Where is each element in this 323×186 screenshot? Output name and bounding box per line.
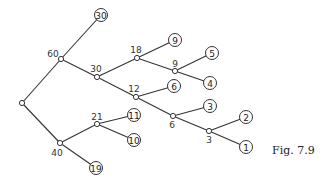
leaf-node: 10 [128,134,141,147]
internal-node: 40 [51,140,63,158]
tree-nodes: 603018912634021309546321111019 [19,9,252,175]
tree-edge [60,124,97,143]
leaf-weight-label: 9 [172,36,178,46]
tree-edge [97,58,137,77]
leaf-node: 5 [206,47,219,60]
internal-node: 12 [128,84,139,100]
tree-edge [137,58,175,71]
node-marker [134,55,139,60]
leaf-node: 11 [128,109,141,122]
leaf-weight-label: 3 [207,102,213,112]
leaf-weight-label: 6 [171,82,177,92]
node-weight-label: 18 [130,45,142,55]
tree-edge [61,15,101,59]
internal-node: 18 [130,45,142,61]
node-marker [172,68,177,73]
leaf-weight-label: 2 [243,113,249,123]
node-weight-label: 3 [206,135,212,145]
node-weight-label: 21 [91,112,102,122]
node-weight-label: 60 [47,49,59,59]
leaf-node: 9 [169,34,182,47]
leaf-weight-label: 10 [128,136,140,146]
leaf-weight-label: 1 [243,143,249,153]
leaf-weight-label: 30 [95,11,107,21]
node-weight-label: 12 [128,84,139,94]
leaf-node: 6 [168,80,181,93]
tree-edge [22,59,61,103]
node-marker [94,121,99,126]
tree-edge [173,116,209,131]
internal-node: 60 [47,49,63,62]
huffman-tree-diagram: 603018912634021309546321111019 Fig. 7.9 [0,0,323,186]
tree-edge [22,103,60,143]
leaf-node: 4 [204,77,217,90]
leaf-weight-label: 4 [207,79,213,89]
internal-node: 6 [169,113,175,130]
leaf-node: 2 [240,111,253,124]
node-weight-label: 6 [169,120,175,130]
node-weight-label: 30 [90,64,102,74]
internal-node: 30 [90,64,102,80]
leaf-node: 30 [95,9,108,22]
leaf-weight-label: 19 [90,164,102,174]
node-weight-label: 9 [172,59,178,69]
leaf-weight-label: 5 [209,49,215,59]
node-marker [206,128,211,133]
node-marker [58,56,63,61]
internal-node: 9 [172,59,178,74]
leaf-node: 3 [204,100,217,113]
leaf-node: 1 [240,141,253,154]
internal-node: 3 [206,128,212,145]
node-marker [94,74,99,79]
internal-node: 21 [91,112,102,127]
leaf-node: 19 [90,162,103,175]
figure-caption: Fig. 7.9 [272,144,315,157]
node-marker [170,113,175,118]
node-weight-label: 40 [51,148,63,158]
node-marker [19,100,24,105]
internal-node [19,100,24,105]
leaf-weight-label: 11 [128,111,139,121]
tree-edge [136,97,173,116]
node-marker [133,94,138,99]
node-marker [57,140,62,145]
